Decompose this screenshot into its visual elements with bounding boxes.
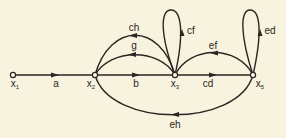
node-label-x1: x1	[11, 79, 19, 92]
node-label-x5: x5	[256, 79, 264, 92]
arrow-cd-icon	[209, 73, 217, 78]
edge-ef	[175, 53, 253, 76]
edge-label-a: a	[53, 79, 59, 89]
node-label-x2: x2	[87, 79, 95, 92]
node-label-x3: x3	[171, 79, 179, 92]
edge-label-b: b	[133, 79, 139, 89]
signal-flow-graph: x1 x2 x3 x5 a b cd g ch cf ef ed eh	[0, 0, 286, 138]
edge-label-eh: eh	[169, 120, 180, 130]
graph-canvas	[0, 0, 286, 138]
edge-label-ch: ch	[129, 23, 140, 33]
arrow-b-icon	[132, 73, 140, 78]
arrow-ch-icon	[129, 33, 137, 38]
arrow-eh-icon	[171, 112, 179, 117]
arrow-ef-icon	[210, 51, 218, 56]
edge-label-cd: cd	[203, 79, 214, 89]
arrow-ed-icon	[258, 29, 263, 36]
edge-label-ef: ef	[209, 41, 217, 51]
node-x5	[250, 72, 255, 77]
edge-label-cf: cf	[187, 26, 195, 36]
arrow-a-icon	[51, 73, 59, 78]
arrow-g-icon	[128, 52, 136, 57]
edge-g	[95, 55, 175, 75]
node-x2	[92, 72, 97, 77]
edge-label-g: g	[131, 41, 137, 51]
edge-label-ed: ed	[264, 26, 275, 36]
